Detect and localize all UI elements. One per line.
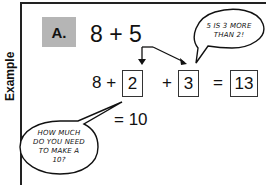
bubble-1-line-2: THAN 2! [196, 31, 262, 40]
result-box-13: 13 [230, 70, 258, 97]
step-equals-sign: = [213, 73, 223, 93]
bubble-2-line-3: TO MAKE A [20, 147, 98, 156]
addend-box-2: 2 [122, 70, 143, 97]
bubble-1-line-1: 5 IS 3 MORE [196, 22, 262, 31]
bubble-2-line-1: HOW MUCH [20, 129, 98, 138]
step-first-term: 8 + [92, 73, 116, 93]
speech-bubble-1-text: 5 IS 3 MORE THAN 2! [196, 22, 262, 40]
bubble-2-line-4: 10? [20, 156, 98, 165]
speech-bubble-2-text: HOW MUCH DO YOU NEED TO MAKE A 10? [20, 129, 98, 165]
sub-result-ten: = 10 [114, 110, 148, 130]
bubble-2-line-2: DO YOU NEED [20, 138, 98, 147]
addend-box-3: 3 [178, 70, 199, 97]
step-plus-sign: + [162, 73, 172, 93]
decomposition-arrows-icon [142, 47, 184, 62]
